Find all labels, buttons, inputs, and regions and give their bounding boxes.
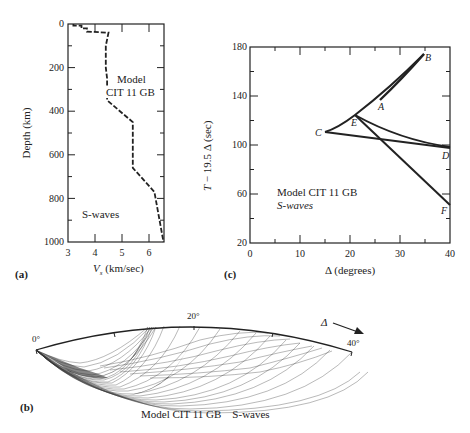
panel-b-surface-arc <box>36 327 352 352</box>
panel-b-label: (b) <box>20 401 33 413</box>
panel-c-ylabel: TT − 19.5 Δ (sec) − 19.5 Δ (sec) <box>201 121 213 191</box>
panel-a-velocity-profile: 0 200 400 600 800 1000 3 4 5 6 Depth (km… <box>20 18 164 258</box>
xtick-6: 6 <box>147 247 152 258</box>
panel-c-xtick-labels: 0 10 20 30 40 <box>248 248 456 259</box>
panel-a-xtick-labels: 3 4 5 6 <box>66 247 152 258</box>
xtick-4: 4 <box>93 247 98 258</box>
xtick-0: 0 <box>248 248 253 259</box>
point-label-b: B <box>425 52 431 63</box>
panel-c-curves <box>325 54 450 205</box>
xtick-10: 10 <box>295 248 305 259</box>
ytick-600: 600 <box>49 149 64 160</box>
panel-a-xlabel-unit: (km/sec) <box>102 262 143 274</box>
panel-a-xlabel: Vs (km/sec) <box>93 262 144 277</box>
curve-e-f <box>355 115 450 205</box>
panel-c-travel-time: A B C D E F 180 140 100 60 20 0 10 20 30… <box>232 41 455 259</box>
xtick-30: 30 <box>395 248 405 259</box>
point-label-a: A <box>377 101 385 112</box>
panel-b-ray-paths <box>36 323 368 413</box>
panel-a-wave-label: S-waves <box>82 208 119 220</box>
ytick-1000: 1000 <box>44 236 64 247</box>
panel-c-annotation-waves: S-waves <box>277 199 313 211</box>
ytick-0: 0 <box>59 18 64 29</box>
panel-b-rays <box>36 326 368 413</box>
figure-canvas: 0 200 400 600 800 1000 3 4 5 6 Depth (km… <box>0 0 470 433</box>
xtick-5: 5 <box>120 247 125 258</box>
point-label-d: D <box>441 150 450 161</box>
curve-c-e-b <box>325 54 424 132</box>
xtick-20: 20 <box>345 248 355 259</box>
xtick-40: 40 <box>445 248 455 259</box>
panel-b-arc-label-40: 40° <box>347 338 360 348</box>
panel-a-annotation-model: Model <box>117 73 146 85</box>
panel-b-arc-label-0: 0° <box>32 334 40 344</box>
panel-b-arc-ticks <box>36 326 352 356</box>
panel-a-ytick-labels: 0 200 400 600 800 1000 <box>44 18 64 247</box>
panel-b-caption: Model CIT 11 GB S-waves <box>141 408 270 420</box>
curve-a-b <box>380 54 424 100</box>
panel-c-xlabel: Δ (degrees) <box>325 264 375 276</box>
panel-a-label: (a) <box>15 268 28 280</box>
point-label-e: E <box>350 117 357 128</box>
panel-a-annotation-cit: CIT 11 GB <box>106 86 155 98</box>
panel-a-xlabel-main: V <box>93 262 100 274</box>
ytick-200: 200 <box>49 62 64 73</box>
ytick-180: 180 <box>232 41 247 52</box>
ytick-20: 20 <box>237 237 247 248</box>
panel-c-ytick-labels: 180 140 100 60 20 <box>232 41 247 248</box>
ytick-60: 60 <box>237 188 247 199</box>
ytick-800: 800 <box>49 193 64 204</box>
point-label-f: F <box>440 205 448 216</box>
panel-b-arrow-label: Δ <box>321 316 327 328</box>
panel-b-delta-arrow <box>333 323 364 334</box>
point-label-c: C <box>315 127 322 138</box>
panel-c-annotation-model: Model CIT 11 GB <box>277 186 357 198</box>
panel-c-label: (c) <box>224 268 236 280</box>
panel-b-arc-label-20: 20° <box>187 311 200 321</box>
xtick-3: 3 <box>66 247 71 258</box>
ytick-400: 400 <box>49 105 64 116</box>
panel-a-yticks <box>68 46 164 220</box>
ytick-140: 140 <box>232 90 247 101</box>
panel-a-ylabel: Depth (km) <box>20 107 33 158</box>
ytick-100: 100 <box>232 139 247 150</box>
